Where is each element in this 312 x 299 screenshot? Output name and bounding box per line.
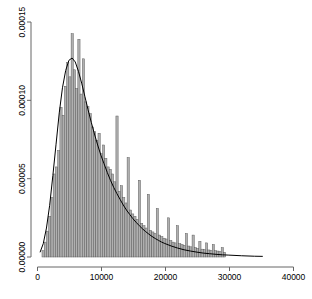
histogram-bar <box>221 248 223 257</box>
histogram-bar <box>161 237 163 257</box>
histogram-bar <box>170 241 172 257</box>
y-axis-tick-label: 0.00015 <box>17 6 27 37</box>
histogram-bar <box>185 234 187 258</box>
histogram-bar <box>114 182 116 257</box>
y-axis-tick-label: 0.00010 <box>17 85 27 116</box>
histogram-bar <box>179 244 181 257</box>
x-axis-tick-label: 40000 <box>282 272 306 282</box>
histogram-bar <box>69 77 71 257</box>
histogram-bar <box>62 115 64 257</box>
histogram-bar <box>165 239 167 257</box>
histogram-bar <box>46 231 48 257</box>
histogram-bar <box>85 102 87 257</box>
histogram-bar <box>118 191 120 257</box>
histogram-bar <box>76 89 78 257</box>
histogram-bar <box>73 70 75 257</box>
x-axis-tick-label: 10000 <box>90 272 114 282</box>
histogram-bar <box>44 242 46 257</box>
x-axis-tick-label: 30000 <box>218 272 242 282</box>
histogram-bar <box>49 216 51 257</box>
x-axis-tick-label: 20000 <box>154 272 178 282</box>
histogram-bar <box>152 232 154 257</box>
histogram-bar <box>154 234 156 258</box>
histogram-bar <box>172 242 174 257</box>
histogram-bar <box>188 246 190 257</box>
y-axis: 0.000000.000050.000100.00015 <box>17 6 31 272</box>
histogram-bar <box>67 63 69 257</box>
histogram-bar <box>64 86 66 257</box>
histogram-bar <box>156 208 158 257</box>
histogram-bar <box>212 244 214 257</box>
histogram-bar <box>94 132 96 257</box>
histogram-bar <box>120 186 122 257</box>
histogram-bar <box>138 180 140 257</box>
histogram-bar <box>181 244 183 257</box>
histogram-bar <box>163 238 165 257</box>
histogram-bar <box>51 197 53 257</box>
histogram-bar <box>158 235 160 257</box>
histogram-bar <box>136 219 138 257</box>
histogram-bar <box>167 218 169 257</box>
histogram-bar <box>183 245 185 257</box>
histogram-bar <box>132 214 134 257</box>
histogram-bars <box>42 34 226 257</box>
histogram-bar <box>190 247 192 257</box>
histogram-bar <box>105 158 107 257</box>
histogram-bar <box>96 140 98 257</box>
y-axis-tick-label: 0.00000 <box>17 241 27 272</box>
histogram-bar <box>100 154 102 257</box>
histogram-bar <box>58 150 60 257</box>
histogram-bar <box>89 114 91 257</box>
histogram-bar <box>176 226 178 257</box>
histogram-bar <box>116 116 118 257</box>
plot-canvas: 0100002000030000400000.000000.000050.000… <box>0 0 312 299</box>
y-axis-tick-label: 0.00005 <box>17 163 27 194</box>
histogram-bar <box>80 94 82 257</box>
histogram-bar <box>60 107 62 257</box>
histogram-bar <box>174 243 176 257</box>
x-axis: 010000200003000040000 <box>35 267 305 282</box>
histogram-bar <box>53 174 55 257</box>
histogram-bar <box>55 167 57 257</box>
histogram-density-plot: 0100002000030000400000.000000.000050.000… <box>0 0 312 299</box>
histogram-bar <box>199 241 201 257</box>
x-axis-tick-label: 0 <box>35 272 40 282</box>
histogram-bar <box>107 167 109 257</box>
histogram-bar <box>71 34 73 257</box>
histogram-bar <box>91 127 93 257</box>
histogram-bar <box>87 107 89 257</box>
histogram-bar <box>192 235 194 257</box>
histogram-bar <box>147 194 149 257</box>
histogram-bar <box>127 158 129 257</box>
histogram-bar <box>42 251 44 257</box>
histogram-bar <box>206 243 208 257</box>
